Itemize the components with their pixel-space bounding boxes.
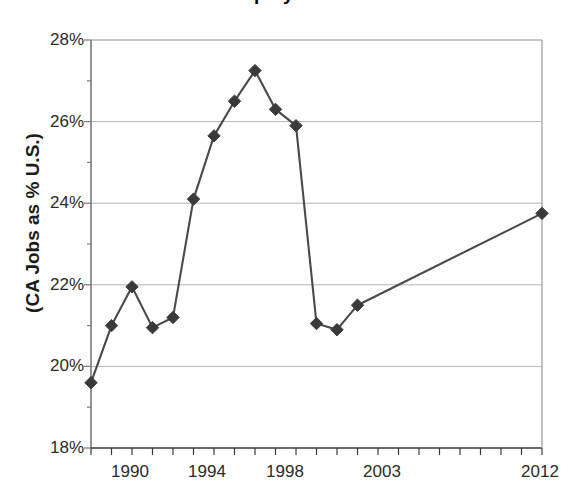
data-point-marker [126,281,138,293]
data-point-marker [249,64,261,76]
data-point-marker [208,130,220,142]
data-point-marker [536,207,548,219]
data-point-marker [228,95,240,107]
plot-area [0,0,564,499]
data-point-marker [310,317,322,329]
chart-figure: Employment (CA Jobs as % U.S.) 28% 26% 2… [0,0,564,499]
data-point-marker [85,377,97,389]
data-point-marker [146,321,158,333]
x-axis-ticks [91,448,542,455]
data-point-marker [105,319,117,331]
series-line [91,71,542,383]
series-markers [85,64,548,389]
data-point-marker [167,311,179,323]
axis-lines [91,40,542,448]
